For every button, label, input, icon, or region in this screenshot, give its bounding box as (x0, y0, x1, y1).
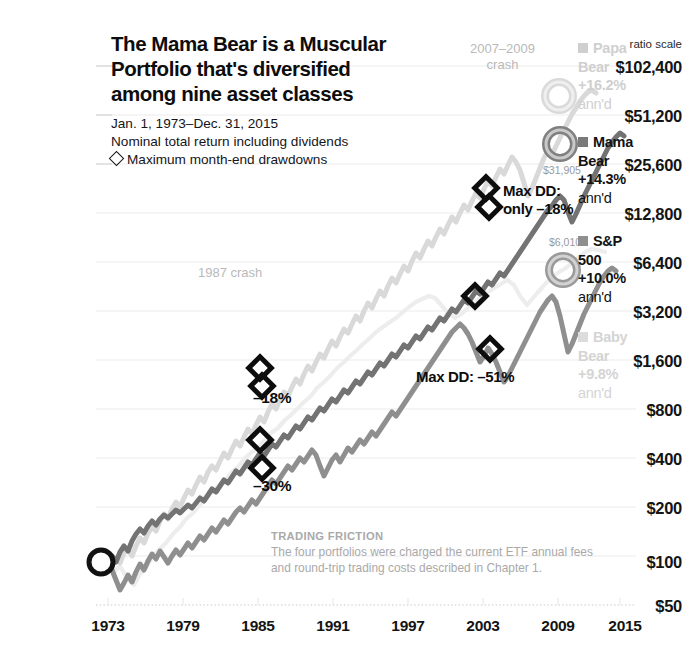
legend-sp500-annd: ann'd (578, 288, 673, 307)
legend-swatch-baby-icon (578, 332, 588, 342)
gridline-stubs (96, 66, 112, 164)
subtitle-date-range: Jan. 1, 1973–Dec. 31, 2015 (111, 115, 431, 133)
annotation-dd-18: –18% (253, 389, 291, 407)
annotation-max-dd-sp500: Max DD: –51% (416, 368, 514, 386)
annotation-max-dd-mama-line2: only –18% (503, 200, 573, 218)
y-tick-label-100: $100 (596, 554, 682, 571)
x-tick-label-1985: 1985 (241, 617, 274, 635)
trading-friction-heading: TRADING FRICTION (271, 529, 571, 544)
trading-friction-line2: and round-trip trading costs described i… (271, 561, 571, 577)
y-tick-label-800: $800 (596, 402, 682, 419)
legend-baby-pct: +9.8% (578, 365, 673, 384)
legend-baby-annd: ann'd (578, 384, 673, 403)
start-marker-1973 (89, 550, 113, 574)
x-tick-label-2015: 2015 (608, 617, 641, 635)
y-tick-label-50: $50 (596, 598, 682, 615)
endpoint-marker-papa-bear (545, 82, 573, 110)
annotation-dd-30: –30% (253, 477, 291, 495)
legend-item-mama-bear[interactable]: Mama Bear +14.3% ann'd (578, 133, 673, 207)
subtitle-drawdown-text: Maximum month-end drawdowns (127, 152, 327, 167)
annotation-2007-2009-crash: 2007–2009 crash (440, 41, 565, 73)
subtitle-return-basis: Nominal total return including dividends (111, 133, 431, 151)
annotation-max-dd-mama-line1: Max DD: (503, 182, 573, 200)
diamond-icon (109, 151, 125, 167)
legend-item-papa-bear[interactable]: Papa Bear +16.2% ann'd (578, 39, 673, 113)
legend-mama-name-line2: Bear (578, 152, 673, 171)
y-tick-label-3200: $3,200 (596, 304, 682, 321)
x-tick-label-2003: 2003 (466, 617, 499, 635)
x-ticks (108, 598, 620, 605)
x-tick-label-2009: 2009 (541, 617, 574, 635)
x-tick-label-1979: 1979 (166, 617, 199, 635)
legend-baby-name-line1: Baby (578, 328, 673, 347)
legend-item-sp500[interactable]: S&P 500 +10.0% ann'd (578, 232, 673, 306)
legend-swatch-mama-icon (578, 137, 588, 147)
legend-papa-name-line2: Bear (578, 58, 673, 77)
annotation-2007-2009-crash-line1: 2007–2009 (440, 41, 565, 57)
legend-papa-pct: +16.2% (578, 76, 673, 95)
chart-title-line-2: Portfolio that's diversified (111, 56, 421, 81)
x-tick-label-1997: 1997 (391, 617, 424, 635)
legend-item-baby-bear[interactable]: Baby Bear +9.8% ann'd (578, 328, 673, 402)
legend-baby-name-line2: Bear (578, 347, 673, 366)
subtitle-drawdown-legend: Maximum month-end drawdowns (111, 151, 431, 169)
trading-friction-line1: The four portfolios were charged the cur… (271, 545, 571, 561)
y-tick-label-400: $400 (596, 451, 682, 468)
legend-sp500-name-line2: 500 (578, 251, 673, 270)
chart-title-line-1: The Mama Bear is a Muscular (111, 31, 421, 56)
chart-title: The Mama Bear is a Muscular Portfolio th… (111, 31, 421, 106)
y-tick-label-12800: $12,800 (596, 206, 682, 223)
legend-mama-name-line1: Mama (578, 133, 673, 152)
value-label-sp500: $6,010 (549, 236, 581, 248)
trading-friction-note: TRADING FRICTION The four portfolios wer… (271, 529, 571, 577)
value-label-mama-bear: $31,905 (543, 164, 581, 176)
legend-swatch-papa-icon (578, 43, 588, 53)
legend-sp500-name-line1: S&P (578, 232, 673, 251)
legend-mama-pct: +14.3% (578, 170, 673, 189)
legend-papa-annd: ann'd (578, 95, 673, 114)
chart-container: ratio scale $102,400 $51,200 $25,600 $12… (0, 0, 682, 669)
legend-mama-annd: ann'd (578, 189, 673, 208)
legend-papa-name-line1: Papa (578, 39, 673, 58)
y-tick-label-200: $200 (596, 500, 682, 517)
annotation-2007-2009-crash-line2: crash (440, 57, 565, 73)
x-tick-label-1991: 1991 (316, 617, 349, 635)
x-tick-label-1973: 1973 (91, 617, 124, 635)
legend-sp500-pct: +10.0% (578, 269, 673, 288)
annotation-1987-crash: 1987 crash (198, 265, 262, 281)
annotation-max-dd-mama: Max DD: only –18% (503, 182, 573, 218)
trading-friction-body: The four portfolios were charged the cur… (271, 545, 571, 576)
legend-swatch-sp500-icon (578, 236, 588, 246)
chart-title-line-3: among nine asset classes (111, 81, 421, 106)
chart-subtitle: Jan. 1, 1973–Dec. 31, 2015 Nominal total… (111, 115, 431, 170)
